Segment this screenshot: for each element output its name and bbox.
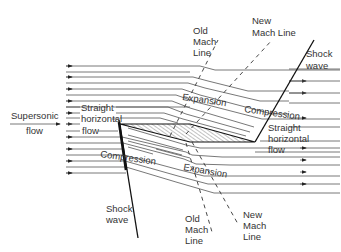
label-flow-right: flow: [268, 144, 285, 155]
label-new-mach-top-1: New: [252, 15, 271, 26]
label-new-mach-bottom-1: New: [243, 209, 262, 220]
shock-wave-bottom-thick: [119, 122, 126, 170]
label-old-mach-top-2: Mach: [193, 36, 216, 47]
label-old-mach-bottom-3: Line: [185, 235, 203, 246]
new-mach-line-bottom: [192, 142, 238, 224]
label-old-mach-bottom-1: Old: [185, 213, 200, 224]
label-old-mach-bottom-2: Mach: [185, 224, 208, 235]
label-straight-left: Straight: [81, 102, 114, 113]
label-shock-bottom: Shock: [106, 203, 133, 214]
label-straight-right: Straight: [268, 122, 301, 133]
label-compression-bottom: Compression: [100, 148, 157, 167]
label-horizontal-left: horizontal: [81, 113, 122, 124]
label-supersonic: Supersonic: [11, 110, 59, 121]
supersonic-flow-diagram: Supersonic flow Straight horizontal flow…: [0, 0, 341, 252]
label-new-mach-bottom-2: Mach: [243, 220, 266, 231]
label-wave-top: wave: [305, 60, 328, 71]
label-flow-left: flow: [82, 125, 99, 136]
label-supersonic-flow: flow: [26, 125, 43, 136]
label-new-mach-top-2: Mach Line: [252, 27, 296, 38]
label-expansion-bottom: Expansion: [183, 161, 229, 180]
label-old-mach-top-1: Old: [193, 25, 208, 36]
label-shock-top: Shock: [306, 48, 333, 59]
label-old-mach-top-3: Line: [193, 47, 211, 58]
label-horizontal-right: horizontal: [268, 133, 309, 144]
label-new-mach-bottom-3: Line: [243, 231, 261, 242]
label-expansion-top: Expansion: [182, 91, 227, 108]
label-wave-bottom: wave: [105, 214, 128, 225]
